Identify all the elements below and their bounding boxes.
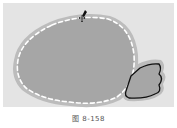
figure-caption: 图 8-158 (0, 113, 177, 123)
move-cursor-icon (76, 9, 90, 27)
